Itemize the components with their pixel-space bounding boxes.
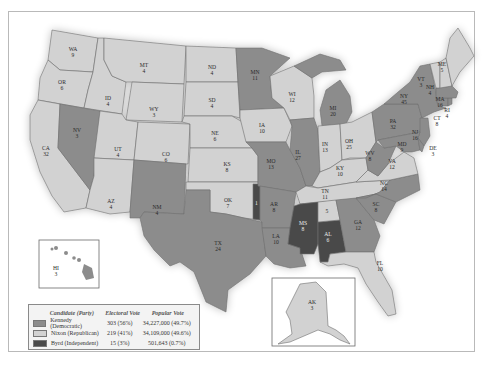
- state-ri[interactable]: [448, 98, 452, 106]
- svg-text:IL27: IL27: [295, 149, 301, 161]
- legend-popular: 501,643 (0.7%): [138, 340, 195, 346]
- legend-header-popular: Popular Vote: [140, 310, 195, 316]
- state-ar[interactable]: [260, 186, 296, 228]
- kennedy-swatch: [33, 320, 46, 327]
- legend-popular: 34,109,000 (49.6%): [138, 330, 195, 336]
- legend-electoral: 15 (3%): [101, 340, 138, 346]
- ok-byrd-label: 1: [255, 200, 258, 206]
- svg-text:PA32: PA32: [390, 118, 397, 130]
- state-me[interactable]: [446, 28, 474, 86]
- al-unpledged-label: 5: [326, 208, 329, 214]
- svg-text:CT8: CT8: [433, 115, 441, 127]
- legend-candidate: Byrd (Independent): [51, 340, 98, 346]
- legend-electoral: 303 (56%): [101, 320, 138, 326]
- state-ia[interactable]: [240, 108, 292, 142]
- state-co[interactable]: [134, 122, 190, 164]
- svg-text:TN11: TN11: [321, 188, 328, 200]
- legend: Candidate (Party) Electoral Vote Popular…: [28, 304, 200, 350]
- svg-text:LA10: LA10: [272, 233, 279, 245]
- legend-candidate: Nixon (Republican): [51, 330, 99, 336]
- svg-text:TX24: TX24: [214, 240, 221, 252]
- svg-text:CA32: CA32: [42, 145, 50, 157]
- svg-text:MI20: MI20: [330, 105, 337, 117]
- svg-text:VA12: VA12: [388, 158, 395, 170]
- legend-row-kennedy: Kennedy (Democratic) 303 (56%) 34,227,00…: [29, 318, 199, 328]
- legend-candidate: Kennedy (Democratic): [50, 317, 101, 329]
- legend-header-electoral: Electoral Vote: [105, 310, 141, 316]
- legend-electoral: 219 (41%): [101, 330, 138, 336]
- svg-text:WI12: WI12: [288, 91, 295, 103]
- byrd-swatch: [33, 340, 47, 347]
- svg-text:IA10: IA10: [259, 122, 265, 134]
- state-mt[interactable]: [104, 38, 186, 84]
- svg-text:IN13: IN13: [322, 141, 328, 153]
- svg-text:FL10: FL10: [377, 260, 384, 272]
- svg-text:DE3: DE3: [429, 145, 437, 157]
- legend-row-byrd: Byrd (Independent) 15 (3%) 501,643 (0.7%…: [29, 338, 199, 348]
- nixon-swatch: [33, 330, 47, 337]
- state-mi[interactable]: [320, 80, 352, 126]
- legend-popular: 34,227,000 (49.7%): [138, 320, 195, 326]
- svg-text:RI4: RI4: [444, 107, 450, 119]
- hawaii-inset: [39, 240, 99, 288]
- legend-header-candidate: Candidate (Party): [33, 310, 105, 316]
- legend-row-nixon: Nixon (Republican) 219 (41%) 34,109,000 …: [29, 328, 199, 338]
